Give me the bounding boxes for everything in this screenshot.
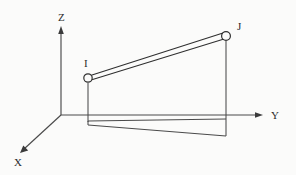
projection-base-top-edge — [88, 119, 226, 121]
x-axis-label: X — [14, 156, 22, 168]
member-edge-lower — [91, 39, 224, 80]
y-axis: Y — [61, 109, 279, 121]
nodes-group: I J — [84, 20, 242, 82]
x-axis-line — [24, 115, 61, 149]
x-axis: X — [14, 115, 61, 168]
member-edge-upper — [92, 33, 223, 75]
ground-projection-group — [88, 41, 226, 136]
coordinate-member-diagram: Z Y X — [0, 0, 296, 175]
node-j-circle — [222, 32, 231, 41]
node-i: I — [84, 57, 92, 82]
y-axis-label: Y — [271, 109, 279, 121]
axes-group: Z Y X — [14, 11, 279, 168]
node-i-label: I — [84, 57, 88, 69]
z-axis-label: Z — [58, 11, 65, 23]
node-i-circle — [84, 74, 92, 82]
y-axis-arrowhead — [255, 112, 263, 117]
member-i-j — [91, 33, 224, 80]
z-axis: Z — [58, 11, 65, 115]
node-j-label: J — [237, 20, 242, 32]
z-axis-arrowhead — [58, 26, 64, 34]
diagram-canvas: Z Y X — [0, 0, 296, 175]
node-j: J — [222, 20, 242, 40]
projection-base-bottom-edge — [88, 125, 226, 136]
